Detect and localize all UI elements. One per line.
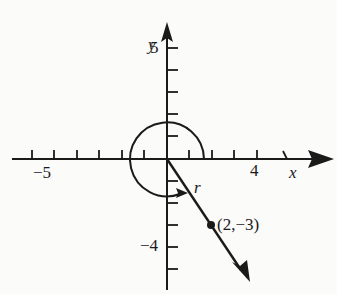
ray-label: r bbox=[194, 179, 201, 196]
x-tick-label-4: 4 bbox=[250, 162, 259, 179]
x-axis-label: x bbox=[289, 164, 297, 181]
x-axis-ticks bbox=[32, 150, 287, 159]
point-label: (2,−3) bbox=[217, 216, 259, 233]
diagram-graphics bbox=[0, 0, 337, 294]
y-tick-label-neg4: −4 bbox=[140, 237, 158, 254]
x-tick-label-neg5: −5 bbox=[33, 164, 51, 181]
y-tick-label-5: 5 bbox=[150, 39, 159, 56]
point-marker bbox=[207, 221, 215, 229]
ray-arrowhead-icon bbox=[232, 260, 250, 282]
coordinate-plane-diagram: y x 5 −4 −5 4 r (2,−3) bbox=[0, 0, 337, 294]
